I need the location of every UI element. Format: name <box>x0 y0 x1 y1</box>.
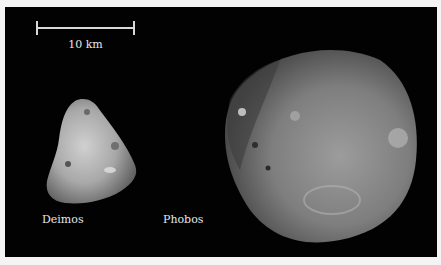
deimos-label: Deimos <box>42 213 84 226</box>
scale-bar-line <box>36 27 135 29</box>
scale-bar-right-cap <box>133 21 135 35</box>
deimos-image <box>43 95 139 207</box>
phobos-label: Phobos <box>163 213 203 226</box>
image-panel: 10 km Deim <box>5 7 437 257</box>
phobos-image <box>220 40 420 250</box>
scale-bar-left-cap <box>36 21 38 35</box>
scale-bar-label: 10 km <box>36 38 135 51</box>
scale-bar <box>36 21 135 35</box>
